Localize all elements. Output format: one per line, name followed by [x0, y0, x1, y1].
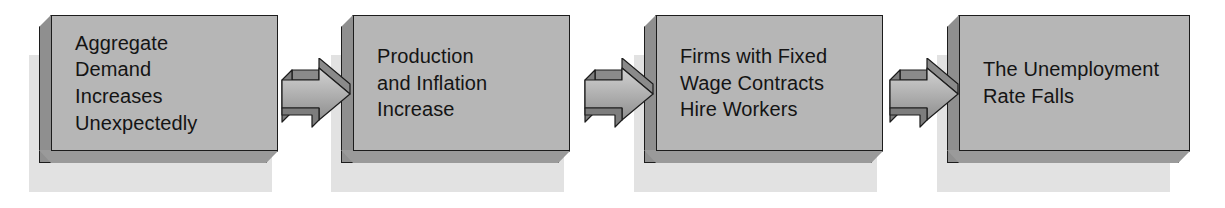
connector-arrow-3 [889, 58, 959, 132]
step-line: Wage Contracts [680, 70, 875, 97]
step-line: Aggregate [75, 30, 270, 57]
step-line: Production [377, 43, 562, 70]
flow-step-firms-hire[interactable]: Firms with Fixed Wage Contracts Hire Wor… [644, 15, 883, 163]
step-line: Increases [75, 83, 270, 110]
step-line: Rate Falls [983, 83, 1182, 110]
connector-arrow-1 [281, 58, 351, 132]
step-line: Demand [75, 56, 270, 83]
arrow-right-icon [584, 58, 654, 132]
flow-step-production-inflation[interactable]: Production and Inflation Increase [341, 15, 570, 163]
step-line: Increase [377, 96, 562, 123]
box-3d-bottom-face [39, 150, 278, 163]
flow-step-label-4: The Unemployment Rate Falls [959, 15, 1190, 151]
step-line: The Unemployment [983, 56, 1182, 83]
box-3d-bottom-face [644, 150, 883, 163]
flow-diagram: Aggregate Demand Increases Unexpectedly [0, 0, 1225, 208]
flow-step-aggregate-demand[interactable]: Aggregate Demand Increases Unexpectedly [39, 15, 278, 163]
step-line: Firms with Fixed [680, 43, 875, 70]
box-3d-bottom-face [947, 150, 1190, 163]
box-3d-bottom-face [341, 150, 570, 163]
flow-step-label-2: Production and Inflation Increase [353, 15, 570, 151]
step-line: Hire Workers [680, 96, 875, 123]
flow-step-label-3: Firms with Fixed Wage Contracts Hire Wor… [656, 15, 883, 151]
flow-step-label-1: Aggregate Demand Increases Unexpectedly [51, 15, 278, 151]
flow-step-unemployment-falls[interactable]: The Unemployment Rate Falls [947, 15, 1190, 163]
step-line: and Inflation [377, 70, 562, 97]
arrow-right-icon [281, 58, 351, 132]
connector-arrow-2 [584, 58, 654, 132]
step-line: Unexpectedly [75, 110, 270, 137]
arrow-right-icon [889, 58, 959, 132]
